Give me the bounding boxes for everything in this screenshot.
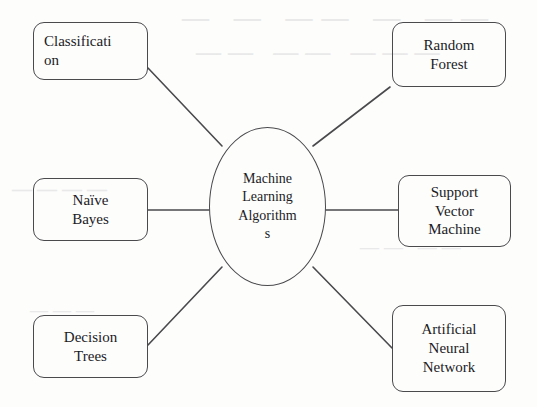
node-support-vector-machine-label: SupportVectorMachine [418, 183, 490, 240]
node-decision-trees-label: DecisionTrees [54, 328, 127, 366]
node-artificial-neural-network[interactable]: ArtificialNeuralNetwork [392, 305, 506, 392]
diagram-canvas: — — —— — —— —— —— ——— ———— —— —— ——— Mac… [0, 0, 537, 407]
node-naive-bayes[interactable]: NaïveBayes [33, 178, 148, 241]
edge-center-decision-trees [148, 267, 222, 345]
edge-center-ann [313, 267, 392, 348]
node-support-vector-machine[interactable]: SupportVectorMachine [398, 175, 511, 247]
node-naive-bayes-label: NaïveBayes [62, 191, 119, 229]
node-decision-trees[interactable]: DecisionTrees [33, 315, 148, 378]
edge-center-random-forest [313, 87, 390, 146]
node-random-forest[interactable]: RandomForest [392, 22, 506, 87]
node-classification-label: Classification [34, 32, 122, 70]
center-node-machine-learning-algorithms[interactable]: MachineLearningAlgorithms [209, 127, 326, 286]
node-artificial-neural-network-label: ArtificialNeuralNetwork [412, 320, 487, 377]
edge-center-classification [148, 68, 222, 146]
node-classification[interactable]: Classification [33, 22, 148, 80]
node-random-forest-label: RandomForest [414, 36, 485, 74]
center-node-label: MachineLearningAlgorithms [238, 170, 296, 243]
